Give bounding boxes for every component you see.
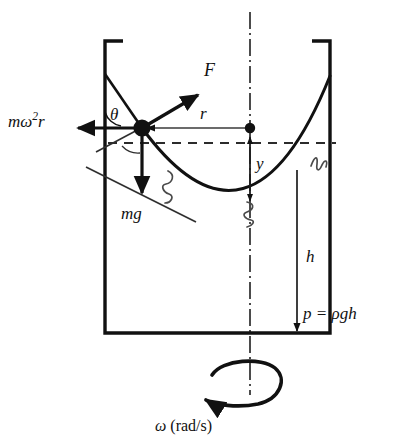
annotation-mark-left (163, 171, 173, 203)
axis-point-marker (245, 123, 255, 133)
particle-dot (133, 119, 150, 136)
label-centrifugal-force: mω2r (8, 111, 45, 130)
label-angle-theta: θ (110, 106, 118, 123)
annotation-mark-vertex (244, 202, 253, 227)
lower-angle-arc (122, 146, 140, 153)
handwritten-annotations (163, 158, 327, 227)
resultant-force-arrow (142, 95, 198, 128)
annotation-mark-right (311, 158, 327, 170)
label-depth: h (306, 248, 315, 265)
label-weight: mg (121, 205, 142, 222)
label-resultant-force: F (204, 61, 215, 79)
label-radius: r (200, 105, 207, 122)
label-pressure-equation: p = ρgh (303, 305, 357, 322)
fluid-particle-marker (133, 119, 150, 136)
axis-dot (245, 123, 255, 133)
label-surface-height: y (256, 155, 264, 172)
diagram-canvas (0, 0, 395, 447)
force-vector (142, 95, 198, 128)
label-angular-velocity: ω (rad/s) (155, 418, 212, 434)
rotation-arrow (206, 361, 281, 406)
rotation-direction-indicator (206, 361, 281, 406)
physics-diagram: mω2r F r θ mg y h p = ρgh ω (rad/s) (0, 0, 395, 447)
